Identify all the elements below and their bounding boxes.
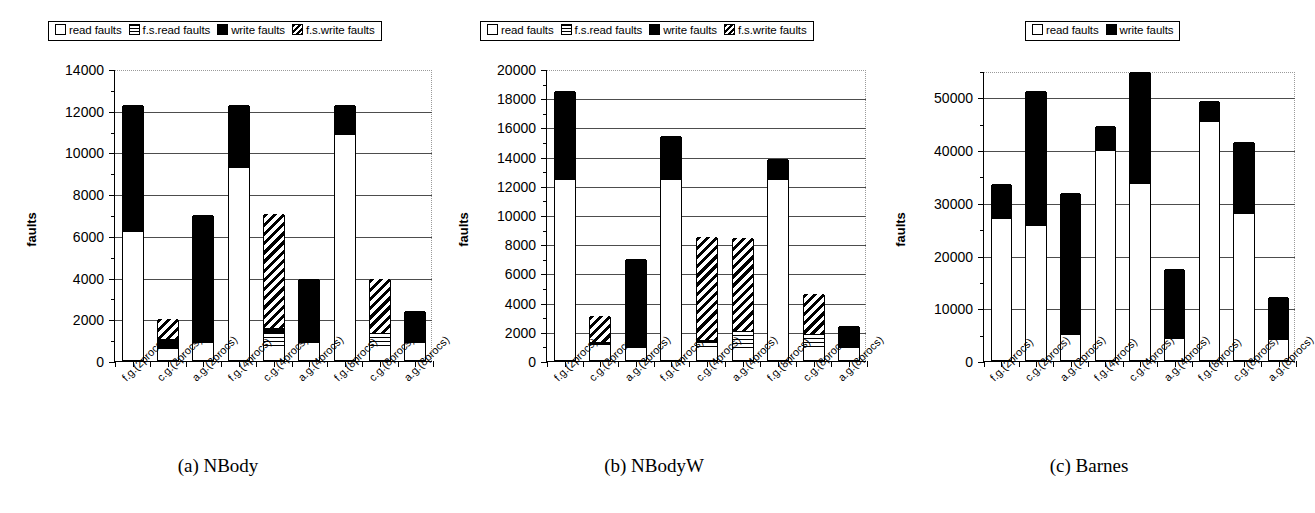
x-axis-tick — [150, 361, 151, 367]
read-faults-swatch — [1032, 24, 1043, 35]
y-axis-minor-tick — [543, 114, 547, 115]
bar-segment-write — [661, 136, 681, 181]
x-axis-tick — [1123, 361, 1124, 367]
bar-segment-write — [193, 215, 213, 343]
chart-panel-c: read faultswrite faults faults f.g.(2pro… — [871, 0, 1307, 513]
x-axis-tick — [689, 361, 690, 367]
gridline — [547, 99, 866, 100]
x-axis-tick — [1019, 361, 1020, 367]
bar-c.g.(8procs) — [1233, 143, 1254, 361]
bar-segment-write — [123, 105, 143, 232]
legend-label: f.s.read faults — [575, 24, 643, 36]
y-axis-tick — [541, 274, 547, 275]
y-axis-tick — [109, 195, 115, 196]
bar-segment-write — [335, 105, 355, 135]
chart-panel-a: read faultsf.s.read faultswrite faultsf.… — [0, 0, 436, 513]
legend-item-fs-write-faults: f.s.write faults — [724, 24, 807, 37]
legend-label: f.s.write faults — [738, 24, 807, 36]
bar-segment-read — [555, 180, 575, 360]
bar-segment-fswrite — [264, 214, 284, 328]
x-axis-tick — [221, 361, 222, 367]
x-axis-tick — [1088, 361, 1089, 367]
x-axis-tick — [867, 361, 868, 367]
y-axis-tick — [109, 279, 115, 280]
gridline — [547, 216, 866, 217]
bar-segment-write — [229, 105, 249, 169]
legend-label: read faults — [1046, 24, 1099, 36]
legend-item-read-faults: read faults — [55, 24, 122, 37]
x-axis-tick — [831, 361, 832, 367]
x-axis-tick — [618, 361, 619, 367]
gridline — [547, 187, 866, 188]
y-axis-minor-tick — [111, 91, 115, 92]
legend-item-write-faults: write faults — [1106, 24, 1174, 37]
write-faults-swatch — [649, 24, 660, 35]
y-axis-tick — [541, 70, 547, 71]
bar-segment-write — [768, 159, 788, 181]
y-axis-tick — [978, 204, 984, 205]
write-faults-swatch — [217, 24, 228, 35]
y-axis-tick — [109, 153, 115, 154]
y-axis-tick-label: 20000 — [436, 63, 536, 77]
bar-segment-write — [1096, 126, 1115, 151]
x-axis-tick — [1192, 361, 1193, 367]
bar-segment-fswrite — [370, 279, 390, 333]
y-axis-tick-label: 12000 — [0, 105, 104, 119]
y-axis-tick-label: 50000 — [871, 91, 973, 105]
y-axis-tick-label: 8000 — [436, 238, 536, 252]
y-axis-minor-tick — [111, 216, 115, 217]
y-axis-minor-tick — [543, 318, 547, 319]
y-axis-tick-label: 0 — [436, 355, 536, 369]
y-axis-tick-label: 20000 — [871, 250, 973, 264]
y-axis-tick-label: 8000 — [0, 188, 104, 202]
plot-area-a — [114, 70, 432, 362]
y-axis-tick — [978, 309, 984, 310]
y-axis-minor-tick — [111, 133, 115, 134]
y-axis-minor-tick — [980, 283, 984, 284]
bar-segment-fswrite — [804, 294, 824, 334]
plot-frame-right — [1294, 72, 1295, 361]
x-axis-tick — [547, 361, 548, 367]
y-axis-tick — [541, 216, 547, 217]
y-axis-tick-label: 6000 — [436, 267, 536, 281]
gridline — [547, 158, 866, 159]
y-axis-minor-tick — [543, 143, 547, 144]
legend-b: read faultsf.s.read faultswrite faultsf.… — [480, 21, 814, 41]
y-axis-tick-label: 10000 — [871, 302, 973, 316]
x-axis-tick — [292, 361, 293, 367]
bar-segment-fswrite — [158, 319, 178, 339]
y-axis-minor-tick — [980, 177, 984, 178]
legend-label: write faults — [663, 24, 717, 36]
bar-segment-read — [1200, 122, 1219, 360]
y-axis-tick — [978, 151, 984, 152]
x-axis-tick — [654, 361, 655, 367]
chart-panel-b: read faultsf.s.read faultswrite faultsf.… — [436, 0, 872, 513]
fs-write-faults-swatch — [724, 24, 735, 35]
y-axis-tick — [978, 98, 984, 99]
y-axis-tick-label: 4000 — [0, 272, 104, 286]
y-axis-tick-label: 10000 — [0, 146, 104, 160]
gridline — [115, 195, 432, 196]
y-axis-minor-tick — [543, 347, 547, 348]
bar-segment-read — [123, 232, 143, 360]
y-axis-tick-label: 12000 — [436, 180, 536, 194]
y-axis-tick — [541, 158, 547, 159]
y-axis-minor-tick — [543, 172, 547, 173]
read-faults-swatch — [55, 24, 66, 35]
y-axis-minor-tick — [111, 299, 115, 300]
bar-f.g.(8procs) — [334, 106, 356, 362]
bar-f.g.(4procs) — [228, 106, 250, 362]
bar-c.g.(8procs) — [803, 295, 825, 361]
legend-item-read-faults: read faults — [1032, 24, 1099, 37]
bar-f.g.(8procs) — [1199, 102, 1220, 361]
caption-c: (c) Barnes — [871, 455, 1307, 477]
x-axis-tick — [433, 361, 434, 367]
legend-label: read faults — [501, 24, 554, 36]
plot-frame-top — [547, 70, 866, 71]
y-axis-minor-tick — [111, 258, 115, 259]
bar-f.g.(8procs) — [767, 160, 789, 361]
x-axis-tick — [725, 361, 726, 367]
y-axis-tick — [109, 112, 115, 113]
x-axis-tick — [1157, 361, 1158, 367]
